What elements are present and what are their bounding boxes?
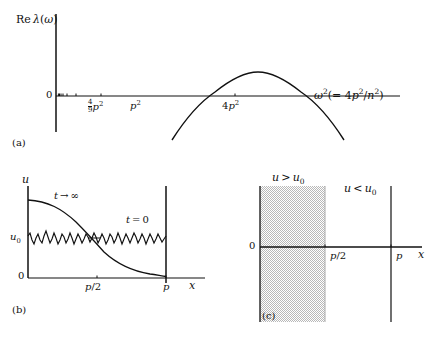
panel-b-u0-label: u0 <box>10 232 21 245</box>
panel-a-y-axis-label: Re λ(ω) <box>16 14 58 25</box>
panel-a-axes <box>56 14 400 132</box>
panel-b-x-axis-label: x <box>189 280 195 291</box>
panel-a-tick-label-4p2: 4p2 <box>222 100 239 111</box>
panel-b-y-axis-label: u <box>22 174 29 185</box>
omega-symbol: ω <box>44 13 53 26</box>
panel-a-tick-label-four-ninths-p2: 49p2 <box>88 99 103 114</box>
panel-a-tick-label-p2: p2 <box>130 100 141 111</box>
panel-b-initial-label: t = 0 <box>126 215 149 225</box>
panel-c-origin-label: 0 <box>249 241 255 251</box>
infinity-symbol: ∞ <box>70 190 78 201</box>
panel-c-tick-label-p: p <box>396 251 402 261</box>
panel-b-tag: (b) <box>12 305 26 315</box>
figure-container: Re λ(ω) 0 49p2 p2 4p2 ω2(= 4p2/n2) (a) u… <box>0 0 439 337</box>
panel-c-region-left-label: u > u0 <box>272 172 305 186</box>
re-symbol: Re <box>16 13 31 26</box>
panel-a-origin-label: 0 <box>46 90 52 100</box>
panel-b-steady-label: t → ∞ <box>54 191 79 201</box>
panel-a-lambda-curve <box>172 72 344 140</box>
panel-a-x-axis-label: ω2(= 4p2/n2) <box>314 88 383 101</box>
arrow-icon: → <box>60 190 68 201</box>
panel-c-tag: (c) <box>262 311 275 321</box>
lambda-symbol: λ <box>33 13 40 26</box>
panel-c-tick-label-half-p: p/2 <box>330 251 346 261</box>
panel-c-region-right-label: u < u0 <box>344 183 377 197</box>
figure-svg <box>0 0 439 337</box>
panel-b-origin-label: 0 <box>18 271 24 281</box>
panel-a-tag: (a) <box>12 138 26 148</box>
panel-b-tick-label-p: p <box>163 282 169 292</box>
panel-c-x-axis-label: x <box>418 249 424 260</box>
paren-close: ) <box>53 13 57 26</box>
panel-c-shaded-region <box>260 186 325 322</box>
panel-b-tick-label-half-p: p/2 <box>85 282 101 292</box>
